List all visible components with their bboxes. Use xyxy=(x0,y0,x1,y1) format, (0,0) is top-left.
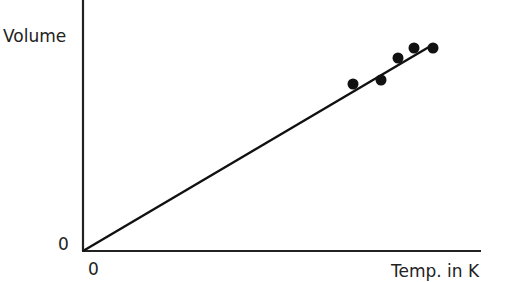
data-point xyxy=(428,43,439,54)
data-point xyxy=(348,79,359,90)
data-point xyxy=(376,75,387,86)
y-axis-label: Volume xyxy=(3,26,66,46)
chart-canvas xyxy=(0,0,506,282)
y-origin-label: 0 xyxy=(58,234,69,254)
data-point xyxy=(393,53,404,64)
x-origin-label: 0 xyxy=(88,259,99,279)
data-point xyxy=(409,43,420,54)
x-axis-label: Temp. in K xyxy=(391,261,479,281)
